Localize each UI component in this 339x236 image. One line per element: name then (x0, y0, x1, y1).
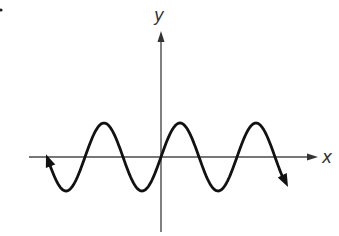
y-axis-arrow-icon (158, 31, 165, 42)
x-axis-arrow-icon (307, 154, 318, 161)
x-axis-label: x (321, 147, 333, 167)
sine-graph: y x (0, 0, 339, 236)
curve-left-arrow-icon (46, 154, 55, 168)
curve-right-arrow-icon (278, 173, 288, 187)
y-axis-label: y (153, 5, 165, 25)
corner-mark (0, 8, 3, 11)
